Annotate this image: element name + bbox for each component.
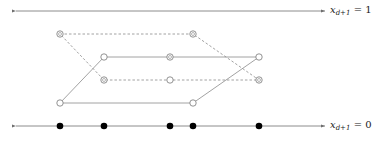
top-axis-label: xd+1 = 1 [330,4,372,17]
bottom-axis-label: xd+1 = 0 [330,119,372,132]
point-marked [256,77,262,83]
point [256,54,262,60]
point-marked [190,31,196,37]
point [167,77,173,83]
diagram-canvas [0,0,387,152]
open-points [57,31,262,106]
point-marked [167,54,173,60]
point-marked [57,31,63,37]
point [190,100,196,106]
point [101,54,107,60]
point-marked [101,77,107,83]
point [57,100,63,106]
